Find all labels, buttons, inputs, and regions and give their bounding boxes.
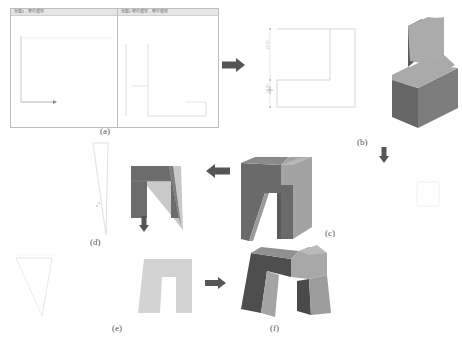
arch-solid-3d: [237, 155, 317, 240]
cad-window-2-title: 草图2 零件模型 - 零件模型: [118, 9, 218, 16]
l-solid-3d: [380, 15, 462, 135]
arrow-right-icon: [222, 58, 246, 72]
sketch-axes-icon: [11, 16, 117, 126]
cad-window-1-title: 草图1 - 零件模型: [11, 9, 117, 16]
caption-c: (c): [325, 228, 335, 238]
caption-f: (f): [270, 323, 279, 333]
caption-a: (a): [100, 126, 110, 136]
faint-sketch: [415, 180, 445, 210]
tapered-sketch: [88, 140, 118, 240]
arch-profile-light: [138, 259, 198, 319]
trapezoid-sketch: [12, 252, 62, 322]
arrow-down-icon: [379, 147, 389, 163]
caption-e: (e): [112, 323, 122, 333]
cad-window-1: 草图1 - 零件模型: [10, 8, 118, 128]
sketch-outline-icon: [118, 16, 218, 126]
caption-b: (b): [357, 137, 368, 147]
m-solid-3d: [239, 245, 334, 320]
dimension-lower: 10.00: [265, 83, 270, 93]
l-profile-sketch: [265, 20, 375, 130]
cad-window-2: 草图2 零件模型 - 零件模型: [117, 8, 219, 128]
arrow-left-icon: [206, 164, 230, 178]
caption-d: (d): [90, 237, 101, 247]
arrow-right-icon: [205, 277, 227, 289]
dimension-upper: 20.00: [265, 39, 270, 49]
arrow-down-icon: [139, 216, 149, 232]
